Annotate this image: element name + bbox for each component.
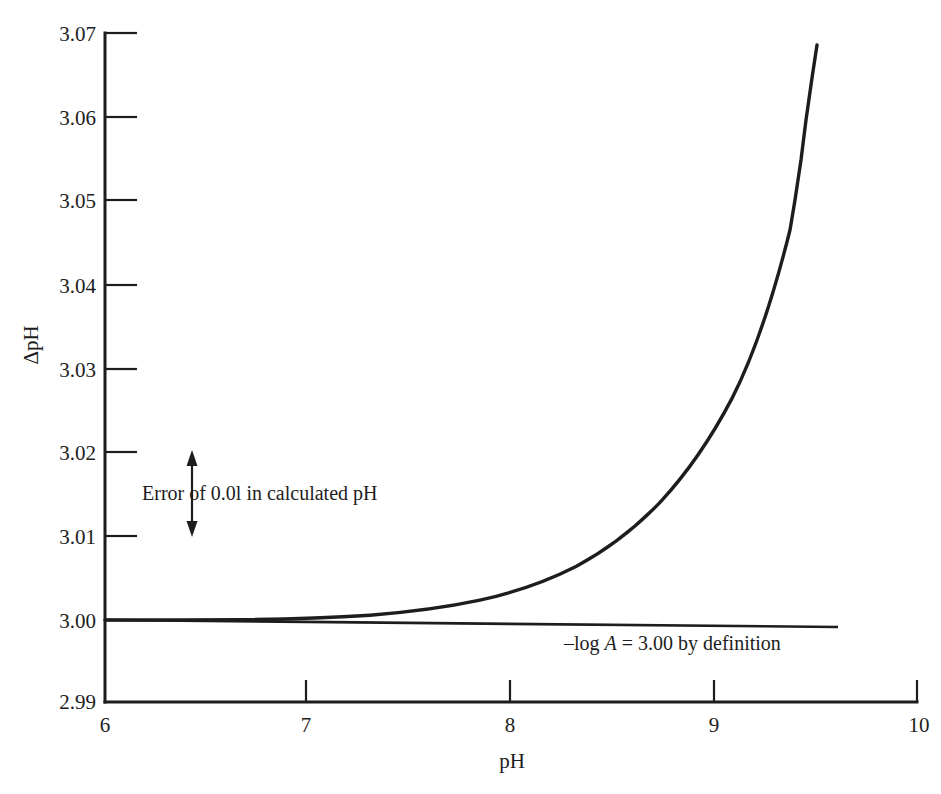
x-tick-label: 6 <box>100 713 111 737</box>
x-tick-label: 7 <box>301 713 312 737</box>
x-tick-labels: 6 7 8 9 10 <box>100 713 930 737</box>
x-tick-label: 10 <box>909 713 930 737</box>
x-tick-label: 9 <box>709 713 720 737</box>
chart-figure: 3.07 3.06 3.05 3.04 3.03 3.02 3.01 3.00 … <box>0 0 941 794</box>
y-axis-ticks <box>105 33 137 620</box>
y-tick-label: 3.00 <box>59 609 96 633</box>
y-tick-label: 3.05 <box>59 189 96 213</box>
y-tick-label: 3.02 <box>59 441 96 465</box>
error-annotation-label: Error of 0.0l in calculated pH <box>142 482 377 505</box>
y-tick-label: 3.03 <box>59 358 96 382</box>
baseline-annotation-suffix: = 3.00 by definition <box>617 632 781 655</box>
y-tick-label: 3.04 <box>59 274 96 298</box>
calculated-ph-curve <box>105 45 817 620</box>
baseline-annotation-symbol: A <box>603 632 618 654</box>
baseline-annotation-prefix: –log <box>563 632 605 655</box>
delta-ph-vs-ph-chart: 3.07 3.06 3.05 3.04 3.03 3.02 3.01 3.00 … <box>0 0 941 794</box>
x-axis-title: pH <box>499 749 525 773</box>
y-tick-label: 2.99 <box>59 690 96 714</box>
x-axis-ticks <box>306 680 917 702</box>
baseline-annotation-label: –log A = 3.00 by definition <box>563 632 781 655</box>
y-tick-labels: 3.07 3.06 3.05 3.04 3.03 3.02 3.01 3.00 … <box>59 22 96 714</box>
y-tick-label: 3.01 <box>59 525 96 549</box>
y-tick-label: 3.07 <box>59 22 96 46</box>
y-tick-label: 3.06 <box>59 106 96 130</box>
y-axis-title: ΔpH <box>19 325 43 364</box>
x-tick-label: 8 <box>505 713 516 737</box>
